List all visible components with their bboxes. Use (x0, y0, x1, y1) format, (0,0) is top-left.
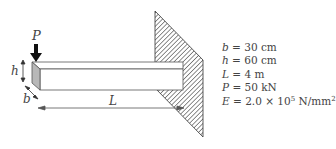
param-value: = 50 kN (232, 81, 276, 93)
param-symbol: P (222, 81, 229, 93)
param-value: = 30 cm (232, 41, 277, 53)
param-e: E = 2.0 × 105 N/mm2 (222, 95, 336, 108)
label-height-h: h (11, 65, 19, 77)
param-unit: N/mm (295, 95, 331, 107)
param-symbol: L (222, 68, 229, 80)
label-length-l: L (109, 95, 117, 107)
param-b: b = 30 cm (222, 41, 336, 54)
load-arrow-icon (30, 44, 42, 62)
param-symbol: b (222, 41, 229, 53)
label-load-p: P (32, 30, 41, 42)
param-value: = 2.0 × 10 (233, 95, 291, 107)
beam (32, 62, 183, 90)
param-h: h = 60 cm (222, 54, 336, 67)
param-value: = 4 m (232, 68, 264, 80)
param-symbol: E (222, 95, 230, 107)
height-dimension-arrow (21, 60, 25, 82)
param-symbol: h (222, 54, 229, 66)
param-unit-exponent: 2 (331, 95, 335, 103)
parameter-list: b = 30 cm h = 60 cm L = 4 m P = 50 kN E … (222, 41, 336, 108)
label-width-b: b (23, 93, 31, 105)
param-p: P = 50 kN (222, 81, 336, 94)
param-l: L = 4 m (222, 68, 336, 81)
param-value: = 60 cm (232, 54, 277, 66)
